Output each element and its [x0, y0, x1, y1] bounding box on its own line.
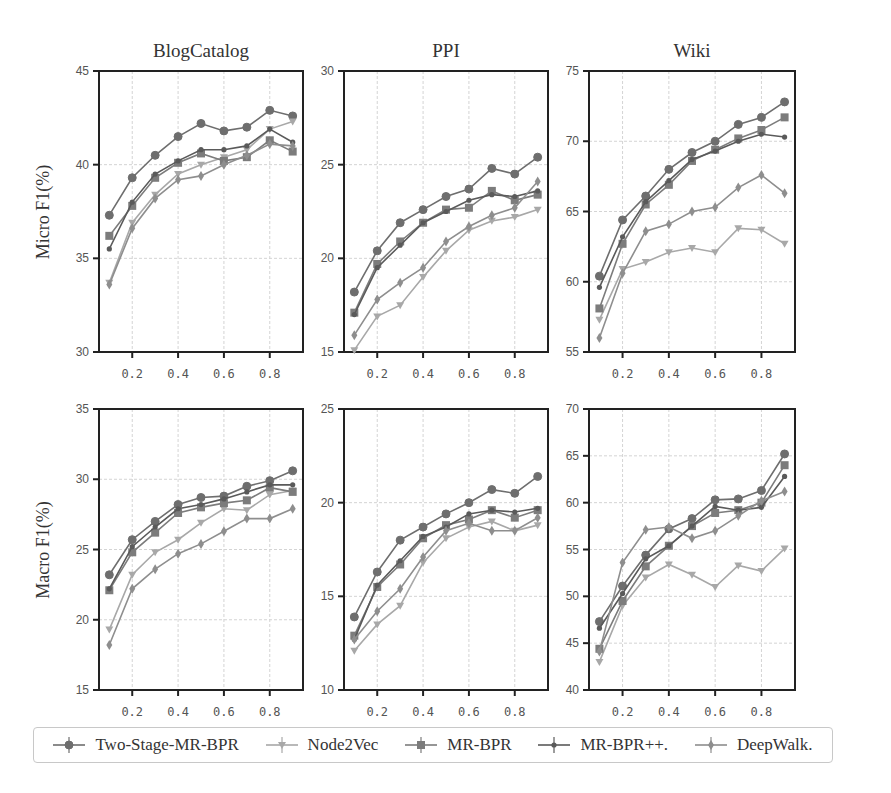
- x-tick-label: 0.4: [167, 367, 189, 381]
- y-tick-label: 10: [321, 683, 335, 697]
- circle-marker-icon: [53, 737, 85, 753]
- x-tick-label: 0.2: [612, 367, 634, 381]
- x-tick-label: 0.2: [121, 705, 143, 719]
- x-tick-label: 0.8: [504, 705, 526, 719]
- subplot-wiki-micro: 0.20.40.60.85560657075: [566, 64, 795, 381]
- x-tick-label: 0.4: [412, 367, 434, 381]
- triangle-down-marker-icon: [266, 737, 298, 753]
- legend-label: DeepWalk.: [737, 735, 813, 755]
- legend-item-mr-bpr: MR-BPR++.: [538, 735, 668, 755]
- x-tick-label: 0.4: [658, 367, 680, 381]
- y-axis-label-macro: Macro F1(%): [33, 501, 54, 598]
- y-tick-label: 60: [566, 496, 580, 510]
- square-marker-icon: [405, 737, 437, 753]
- y-tick-label: 55: [566, 543, 580, 557]
- series-deepwalk: [106, 139, 295, 290]
- plot-frame: [344, 409, 548, 690]
- legend: Two-Stage-MR-BPRNode2VecMR-BPRMR-BPR++.D…: [33, 727, 833, 763]
- x-tick-label: 0.8: [751, 367, 773, 381]
- subplot-ppi-micro: 0.20.40.60.815202530: [321, 64, 548, 381]
- subplot-wiki-macro: 0.20.40.60.840455055606570: [566, 402, 795, 719]
- y-tick-label: 65: [566, 449, 580, 463]
- y-tick-label: 60: [566, 275, 580, 289]
- legend-item-mr-bpr: MR-BPR: [405, 735, 511, 755]
- x-tick-label: 0.6: [213, 705, 235, 719]
- y-tick-label: 40: [76, 158, 90, 172]
- x-tick-label: 0.4: [412, 705, 434, 719]
- y-tick-label: 75: [566, 64, 580, 78]
- y-tick-label: 15: [321, 345, 335, 359]
- y-tick-label: 20: [76, 613, 90, 627]
- y-tick-label: 20: [321, 496, 335, 510]
- legend-label: Two-Stage-MR-BPR: [95, 735, 238, 755]
- legend-label: Node2Vec: [308, 735, 379, 755]
- x-tick-label: 0.6: [458, 367, 480, 381]
- subplot-blogcatalog-macro: 0.20.40.60.81520253035: [76, 402, 303, 719]
- dot-marker-icon: [538, 737, 570, 753]
- y-axis-label-micro: Micro F1(%): [33, 165, 54, 259]
- x-tick-label: 0.2: [366, 367, 388, 381]
- y-tick-label: 45: [76, 64, 90, 78]
- diamond-marker-icon: [695, 737, 727, 753]
- legend-label: MR-BPR++.: [580, 735, 668, 755]
- figure-canvas: 0.20.40.60.830354045BlogCatalog0.20.40.6…: [0, 0, 891, 793]
- series-deepwalk: [596, 170, 787, 343]
- x-tick-label: 0.4: [658, 705, 680, 719]
- y-tick-label: 65: [566, 205, 580, 219]
- x-tick-label: 0.8: [259, 367, 281, 381]
- y-tick-label: 40: [566, 683, 580, 697]
- legend-item-node2vec: Node2Vec: [266, 735, 379, 755]
- x-tick-label: 0.8: [751, 705, 773, 719]
- x-tick-label: 0.4: [167, 705, 189, 719]
- y-tick-label: 35: [76, 251, 90, 265]
- y-tick-label: 25: [76, 543, 90, 557]
- series-two-stage-mr-bpr: [350, 153, 541, 296]
- series-node2vec: [350, 207, 541, 355]
- series-two-stage-mr-bpr: [350, 472, 541, 621]
- y-tick-label: 15: [321, 589, 335, 603]
- x-tick-label: 0.8: [504, 367, 526, 381]
- y-tick-label: 70: [566, 134, 580, 148]
- legend-label: MR-BPR: [447, 735, 511, 755]
- subplot-blogcatalog-micro: 0.20.40.60.830354045: [76, 64, 303, 381]
- x-tick-label: 0.2: [121, 367, 143, 381]
- column-title: PPI: [432, 40, 459, 61]
- y-tick-label: 25: [321, 402, 335, 416]
- x-tick-label: 0.6: [458, 705, 480, 719]
- y-tick-label: 15: [76, 683, 90, 697]
- y-tick-label: 20: [321, 251, 335, 265]
- x-tick-label: 0.8: [259, 705, 281, 719]
- x-tick-label: 0.6: [213, 367, 235, 381]
- y-tick-label: 30: [321, 64, 335, 78]
- y-tick-label: 30: [76, 472, 90, 486]
- legend-item-two-stage-mr-bpr: Two-Stage-MR-BPR: [53, 735, 238, 755]
- y-tick-label: 50: [566, 589, 580, 603]
- x-tick-label: 0.2: [612, 705, 634, 719]
- x-tick-label: 0.6: [704, 367, 726, 381]
- column-title: Wiki: [673, 40, 710, 61]
- y-tick-label: 70: [566, 402, 580, 416]
- legend-item-deepwalk: DeepWalk.: [695, 735, 813, 755]
- y-tick-label: 55: [566, 345, 580, 359]
- series-two-stage-mr-bpr: [595, 98, 788, 280]
- series-deepwalk: [596, 486, 787, 656]
- y-tick-label: 35: [76, 402, 90, 416]
- series-deepwalk: [351, 513, 540, 645]
- y-tick-label: 25: [321, 158, 335, 172]
- column-title: BlogCatalog: [153, 40, 250, 61]
- subplot-ppi-macro: 0.20.40.60.810152025: [321, 402, 548, 719]
- y-tick-label: 45: [566, 636, 580, 650]
- x-tick-label: 0.6: [704, 705, 726, 719]
- x-tick-label: 0.2: [366, 705, 388, 719]
- series-mr-bpr: [597, 474, 787, 631]
- y-tick-label: 30: [76, 345, 90, 359]
